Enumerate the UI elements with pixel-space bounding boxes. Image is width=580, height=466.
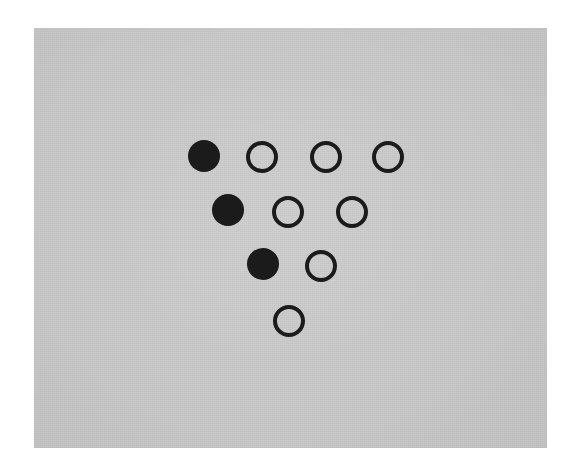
panel-grain-texture	[34, 28, 547, 448]
filled-circle	[188, 140, 220, 172]
open-circle	[272, 196, 304, 228]
open-circle	[372, 141, 404, 173]
filled-circle	[212, 194, 244, 226]
image-canvas	[0, 0, 580, 466]
open-circle	[246, 141, 278, 173]
figure-panel	[34, 28, 547, 448]
open-circle	[305, 250, 337, 282]
filled-circle	[247, 248, 279, 280]
open-circle	[336, 196, 368, 228]
open-circle	[273, 305, 305, 337]
panel-vignette	[34, 28, 547, 448]
open-circle	[310, 141, 342, 173]
